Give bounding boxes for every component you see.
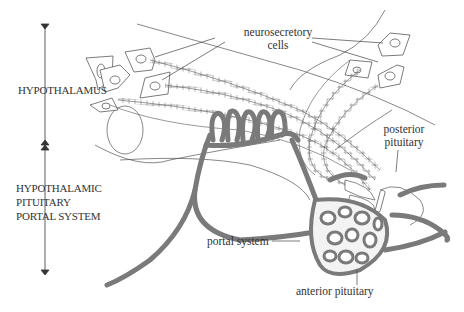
anterior-pituitary-network bbox=[311, 199, 387, 274]
posterior-label-line2: pituitary bbox=[372, 136, 436, 149]
posterior-label-line1: posterior bbox=[372, 123, 436, 136]
neurosecretory-label-line2: cells bbox=[228, 39, 328, 52]
portal-system-region-label-line2: PITUITARY bbox=[16, 196, 71, 209]
portal-vessels bbox=[107, 111, 318, 285]
anterior-pituitary-label: anterior pituitary bbox=[296, 285, 374, 298]
portal-system-region-label-line3: PORTAL SYSTEM bbox=[16, 210, 100, 223]
portal-system-label: portal system bbox=[207, 235, 269, 248]
hypothalamus-label: HYPOTHALAMUS bbox=[18, 84, 107, 97]
portal-system-region-label-line1: HYPOTHALAMIC bbox=[16, 182, 102, 195]
neurosecretory-label-line1: neurosecretory bbox=[228, 26, 328, 39]
posterior-pituitary-label: posterior pituitary bbox=[372, 123, 436, 149]
neurosecretory-cells-label: neurosecretory cells bbox=[228, 26, 328, 52]
region-scale-bars bbox=[41, 24, 49, 275]
